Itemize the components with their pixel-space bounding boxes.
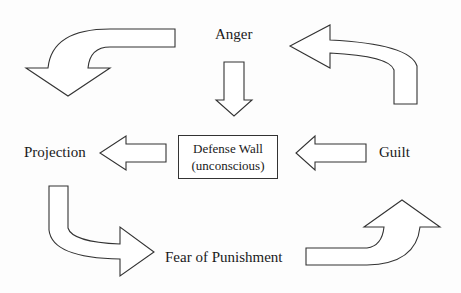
node-guilt: Guilt	[379, 145, 410, 160]
node-projection: Projection	[24, 145, 86, 160]
defense-cycle-diagram: Anger Projection Guilt Fear of Punishmen…	[0, 0, 461, 293]
defense-wall-title: Defense Wall	[193, 140, 263, 157]
defense-wall-subtitle: (unconscious)	[192, 157, 265, 174]
arrow-anger-to-wall	[216, 62, 252, 116]
arrow-guilt-to-wall	[296, 136, 366, 170]
curved-arrow-guilt-to-anger	[290, 25, 417, 104]
curved-arrow-fear-to-guilt	[306, 200, 440, 265]
node-anger: Anger	[215, 27, 253, 42]
curved-arrow-projection-to-fear	[49, 186, 154, 276]
node-fear-of-punishment: Fear of Punishment	[165, 250, 283, 265]
curved-arrow-anger-to-projection	[26, 29, 175, 96]
arrow-wall-to-projection	[100, 136, 166, 170]
node-defense-wall: Defense Wall (unconscious)	[178, 135, 278, 179]
